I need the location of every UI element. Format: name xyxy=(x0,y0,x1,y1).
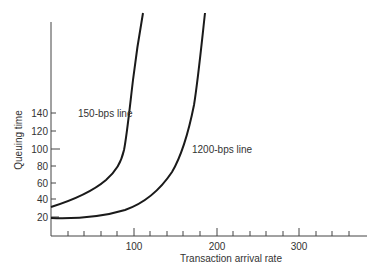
svg-text:40: 40 xyxy=(37,194,49,205)
svg-text:120: 120 xyxy=(31,126,48,137)
svg-text:80: 80 xyxy=(37,161,49,172)
chart: 20 40 60 80 100 120 140 100 200 300 Tran… xyxy=(0,0,381,275)
svg-text:60: 60 xyxy=(37,178,49,189)
x-tick-labels: 100 200 300 xyxy=(126,241,308,252)
y-axis-title: Queuing time xyxy=(13,110,24,170)
y-tick-labels: 20 40 60 80 100 120 140 xyxy=(31,108,48,223)
svg-text:100: 100 xyxy=(31,144,48,155)
svg-text:20: 20 xyxy=(37,212,49,223)
label-1200bps: 1200-bps line xyxy=(192,144,252,155)
svg-text:140: 140 xyxy=(31,108,48,119)
label-150bps: 150-bps line xyxy=(78,108,133,119)
svg-text:200: 200 xyxy=(209,241,226,252)
x-ticks xyxy=(68,228,349,236)
svg-text:300: 300 xyxy=(291,241,308,252)
svg-text:100: 100 xyxy=(126,241,143,252)
x-axis-title: Transaction arrival rate xyxy=(180,253,282,264)
y-ticks xyxy=(51,113,60,217)
